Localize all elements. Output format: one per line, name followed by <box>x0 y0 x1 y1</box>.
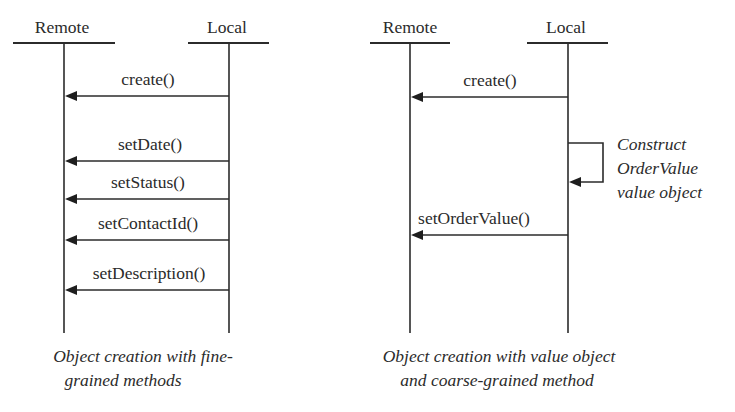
annotation-line-3: value object <box>617 182 703 202</box>
arrowhead-icon <box>411 92 423 102</box>
message-set-date: setDate() <box>65 134 229 166</box>
arrowhead-icon <box>65 91 77 101</box>
message-set-order-value: setOrderValue() <box>411 208 568 240</box>
message-label: setDate() <box>118 134 182 154</box>
message-label: setContactId() <box>98 213 198 233</box>
caption-line-2: grained methods <box>64 370 181 390</box>
caption-line-2: and coarse-grained method <box>400 370 594 390</box>
message-set-description: setDescription() <box>65 263 229 295</box>
message-label: create() <box>121 69 175 89</box>
arrowhead-icon <box>65 285 77 295</box>
annotation-line-1: Construct <box>617 134 687 154</box>
message-set-status: setStatus() <box>65 172 229 204</box>
self-call-construct-order-value: Construct OrderValue value object <box>568 134 703 202</box>
arrowhead-icon <box>65 194 77 204</box>
message-label: setOrderValue() <box>418 208 530 228</box>
sequence-diagrams: Remote Local create() setDate() setStatu… <box>0 0 735 412</box>
caption-line-1: Object creation with fine- <box>53 346 233 366</box>
diagram-value-object: Remote Local create() Construct OrderVal… <box>370 17 703 390</box>
arrowhead-icon <box>65 156 77 166</box>
arrowhead-icon <box>65 235 77 245</box>
participant-remote: Remote <box>13 17 115 333</box>
caption-line-1: Object creation with value object <box>383 346 617 366</box>
arrowhead-icon <box>411 230 423 240</box>
participant-local: Local <box>188 17 269 333</box>
message-create: create() <box>65 69 229 101</box>
message-label: setDescription() <box>93 263 206 283</box>
message-create: create() <box>411 70 568 102</box>
participant-label-local: Local <box>546 17 586 37</box>
participant-label-local: Local <box>207 17 247 37</box>
self-call-loop-line <box>568 143 603 182</box>
participant-remote: Remote <box>370 17 450 333</box>
participant-label-remote: Remote <box>383 17 438 37</box>
message-label: create() <box>463 70 517 90</box>
arrowhead-icon <box>569 177 581 187</box>
diagram-fine-grained: Remote Local create() setDate() setStatu… <box>13 17 269 390</box>
participant-label-remote: Remote <box>35 17 90 37</box>
caption-value-object: Object creation with value object and co… <box>383 346 617 390</box>
message-label: setStatus() <box>111 172 185 192</box>
message-set-contact-id: setContactId() <box>65 213 229 245</box>
participant-local: Local <box>527 17 608 333</box>
caption-fine-grained: Object creation with fine- grained metho… <box>53 346 233 390</box>
annotation-line-2: OrderValue <box>617 158 698 178</box>
